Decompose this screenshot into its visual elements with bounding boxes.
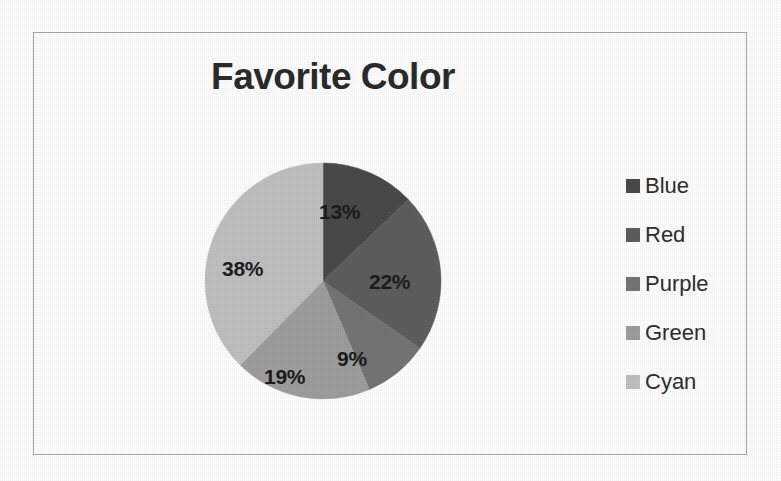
legend-item-label: Blue [645, 175, 689, 197]
pie-slice-label: 9% [337, 347, 367, 371]
pie-chart: 13%22%9%19%38% [204, 162, 442, 400]
legend-item-blue: Blue [626, 172, 746, 199]
legend-item-label: Green [645, 322, 706, 344]
chart-legend: BlueRedPurpleGreenCyan [626, 172, 746, 417]
legend-item-red: Red [626, 221, 746, 248]
legend-swatch-icon [626, 326, 640, 340]
chart-title: Favorite Color [33, 56, 633, 98]
legend-swatch-icon [626, 277, 640, 291]
legend-swatch-icon [626, 375, 640, 389]
pie-slice-label: 22% [369, 270, 410, 294]
pie-slice-label: 19% [264, 365, 305, 389]
legend-item-cyan: Cyan [626, 368, 746, 395]
pie-slice-label: 38% [222, 257, 263, 281]
legend-item-green: Green [626, 319, 746, 346]
legend-item-label: Red [645, 224, 685, 246]
legend-item-label: Cyan [645, 371, 696, 393]
pie-slice-label: 13% [319, 200, 360, 224]
scanned-page: Favorite Color 13%22%9%19%38% BlueRedPur… [0, 0, 781, 481]
legend-swatch-icon [626, 228, 640, 242]
legend-swatch-icon [626, 179, 640, 193]
legend-item-label: Purple [645, 273, 709, 295]
legend-item-purple: Purple [626, 270, 746, 297]
